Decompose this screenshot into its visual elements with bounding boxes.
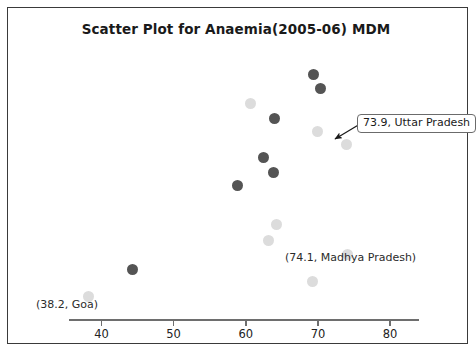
plot-area: 4050607080 (38.2, Goa) (74.1, Madhya Pra… <box>8 8 469 345</box>
x-axis-line <box>69 319 419 321</box>
callout-arrow-icon <box>8 8 469 345</box>
data-point <box>271 219 282 230</box>
x-tick-label-80: 80 <box>370 327 410 341</box>
x-tick-40 <box>101 321 103 326</box>
data-point <box>258 152 269 163</box>
x-tick-50 <box>173 321 175 326</box>
x-tick-70 <box>317 321 319 326</box>
chart-frame: Scatter Plot for Anaemia(2005-06) MDM 40… <box>7 7 468 344</box>
data-point <box>307 276 318 287</box>
data-point <box>308 69 319 80</box>
x-tick-label-40: 40 <box>81 327 121 341</box>
data-point <box>268 167 279 178</box>
data-point <box>312 126 323 137</box>
annotation-goa: (38.2, Goa) <box>36 298 98 311</box>
x-tick-60 <box>245 321 247 326</box>
data-point <box>232 180 243 191</box>
scatter-plot-figure: Scatter Plot for Anaemia(2005-06) MDM 40… <box>0 0 476 358</box>
data-point <box>263 235 274 246</box>
data-point <box>315 83 326 94</box>
x-tick-label-50: 50 <box>154 327 194 341</box>
data-point <box>127 264 138 275</box>
annotation-madhya-pradesh: (74.1, Madhya Pradesh) <box>285 251 416 264</box>
data-point <box>269 113 280 124</box>
annotation-uttar-pradesh: 73.9, Uttar Pradesh <box>357 114 476 133</box>
x-tick-label-60: 60 <box>226 327 266 341</box>
x-tick-label-70: 70 <box>298 327 338 341</box>
x-tick-80 <box>389 321 391 326</box>
data-point <box>245 98 256 109</box>
data-point <box>341 139 352 150</box>
